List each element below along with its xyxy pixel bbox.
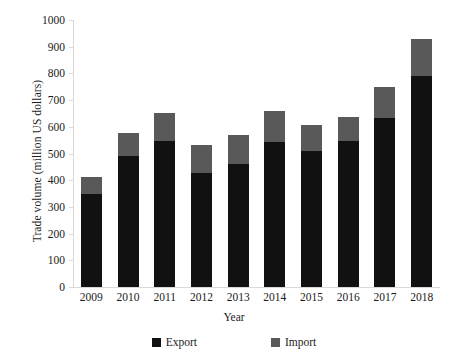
y-axis-tick-label: 300: [48, 201, 65, 213]
bar-column: [154, 113, 175, 287]
bar-segment-export: [191, 173, 212, 287]
x-axis-tick-label: 2015: [300, 291, 323, 303]
legend-item: Export: [152, 336, 197, 348]
legend-swatch-icon: [271, 338, 280, 347]
x-axis-tick-label: 2018: [410, 291, 433, 303]
bar-segment-export: [338, 141, 359, 287]
bar-segment-export: [81, 194, 102, 287]
y-axis-tick: [69, 154, 73, 155]
chart-legend: ExportImport: [0, 336, 468, 348]
bar-column: [191, 145, 212, 287]
y-axis-tick: [69, 260, 73, 261]
bar-segment-import: [374, 87, 395, 118]
bar-segment-export: [228, 164, 249, 287]
legend-label: Import: [285, 336, 316, 348]
bar-segment-import: [264, 111, 285, 142]
y-axis-title: Trade volume (million US dollars): [31, 26, 43, 296]
x-axis-line: [73, 287, 440, 288]
bar-segment-export: [301, 151, 322, 287]
bar-segment-import: [154, 113, 175, 140]
y-axis-tick: [69, 20, 73, 21]
bar-segment-export: [154, 141, 175, 287]
bar-column: [81, 177, 102, 287]
y-axis-tick-label: 900: [48, 41, 65, 53]
x-axis-tick-label: 2016: [337, 291, 360, 303]
bar-column: [228, 135, 249, 287]
legend-swatch-icon: [152, 338, 161, 347]
legend-label: Export: [166, 336, 197, 348]
y-axis-tick: [69, 47, 73, 48]
y-axis-tick-label: 400: [48, 174, 65, 186]
x-axis-tick-label: 2011: [153, 291, 176, 303]
stacked-bar-chart: Trade volume (million US dollars) 010020…: [0, 0, 468, 364]
y-axis-tick-label: 600: [48, 121, 65, 133]
y-axis-tick: [69, 287, 73, 288]
y-axis-tick: [69, 234, 73, 235]
y-axis-tick-label: 500: [48, 148, 65, 160]
y-axis-tick: [69, 207, 73, 208]
x-axis-title: Year: [0, 311, 468, 323]
y-axis-tick-label: 700: [48, 94, 65, 106]
bar-segment-export: [374, 118, 395, 287]
bar-column: [118, 133, 139, 287]
y-axis-tick-label: 100: [48, 254, 65, 266]
y-axis-tick-label: 800: [48, 67, 65, 79]
y-axis-tick-label: 200: [48, 228, 65, 240]
plot-area: 01002003004005006007008009001000: [73, 20, 440, 287]
legend-item: Import: [271, 336, 316, 348]
x-axis-tick-label: 2017: [373, 291, 396, 303]
y-axis-tick: [69, 180, 73, 181]
bar-segment-import: [301, 125, 322, 151]
bar-column: [411, 39, 432, 287]
bar-column: [338, 117, 359, 287]
bar-segment-import: [228, 135, 249, 163]
bar-column: [374, 87, 395, 287]
y-axis-tick: [69, 100, 73, 101]
y-axis-tick-label: 0: [59, 281, 65, 293]
bar-column: [264, 111, 285, 287]
bar-segment-import: [191, 145, 212, 173]
x-axis-tick-label: 2013: [227, 291, 250, 303]
y-axis-tick: [69, 73, 73, 74]
y-axis-tick-label: 1000: [42, 14, 65, 26]
bar-segment-export: [411, 76, 432, 287]
bar-segment-import: [118, 133, 139, 155]
bar-segment-export: [118, 156, 139, 287]
y-axis-tick: [69, 127, 73, 128]
bar-segment-export: [264, 142, 285, 288]
x-axis-tick-label: 2014: [263, 291, 286, 303]
x-axis-tick-label: 2012: [190, 291, 213, 303]
bar-segment-import: [81, 177, 102, 194]
bar-column: [301, 125, 322, 287]
bar-segment-import: [411, 39, 432, 75]
bar-segment-import: [338, 117, 359, 140]
x-axis-tick-label: 2010: [117, 291, 140, 303]
x-axis-tick-label: 2009: [80, 291, 103, 303]
